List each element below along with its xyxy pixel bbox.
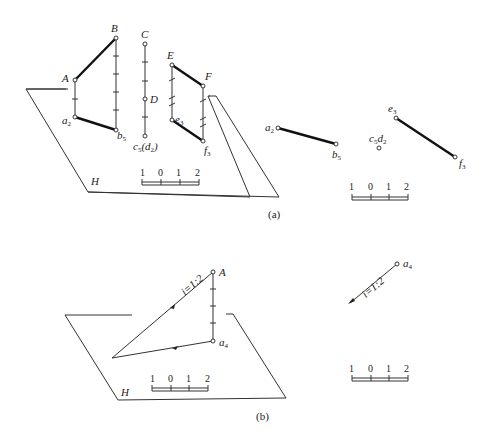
proj-point-a2 <box>276 126 280 130</box>
svg-text:1: 1 <box>386 363 391 374</box>
line-AB <box>75 38 116 80</box>
label-C: C <box>141 28 149 40</box>
line-a2b5 <box>75 117 116 130</box>
proj-label-a4-b: a4 <box>403 257 413 271</box>
point-c5d2 <box>143 134 147 138</box>
label-f3: f3 <box>204 144 211 158</box>
proj-line-e3f3 <box>396 118 455 157</box>
proj-scale-bar: 1 0 1 2 <box>349 181 409 200</box>
slope-line-lower <box>112 341 213 358</box>
point-e3 <box>170 118 174 122</box>
svg-text:2: 2 <box>205 373 210 384</box>
label-A: A <box>61 72 69 84</box>
point-B <box>114 36 118 40</box>
scale-bar-b: 1 0 1 2 <box>150 373 210 391</box>
svg-text:1: 1 <box>349 181 354 192</box>
svg-text:1: 1 <box>150 373 155 384</box>
svg-text:1: 1 <box>186 373 191 384</box>
proj-line-a2b5 <box>278 128 336 144</box>
svg-text:2: 2 <box>404 181 409 192</box>
proj-point-c5d2 <box>377 146 381 150</box>
label-D: D <box>149 93 158 105</box>
label-E: E <box>166 49 174 61</box>
point-a2 <box>73 115 77 119</box>
figure-b-perspective: A a4 i=1:2 H 1 0 1 2 (b) <box>65 266 286 423</box>
svg-text:1: 1 <box>349 363 354 374</box>
diagram-canvas: A B C D E F a2 b5 c5(d2) e3 f3 H 1 0 1 2 <box>0 0 491 441</box>
point-A <box>73 78 77 82</box>
point-F <box>201 84 205 88</box>
svg-text:1: 1 <box>140 167 145 178</box>
proj-label-c5d2: c5d2 <box>369 132 387 146</box>
label-e3: e3 <box>175 113 184 127</box>
svg-text:0: 0 <box>368 363 373 374</box>
point-C <box>143 42 147 46</box>
plane-h-outline <box>26 89 250 197</box>
proj-label-slope-b: i=1:2 <box>359 274 386 300</box>
arrow-lower <box>172 346 178 350</box>
label-plane-h: H <box>90 175 100 187</box>
label-c5d2: c5(d2) <box>133 140 158 154</box>
label-plane-h-b: H <box>120 386 130 398</box>
figure-a-perspective: A B C D E F a2 b5 c5(d2) e3 f3 H 1 0 1 2 <box>26 22 279 197</box>
point-f3 <box>201 139 205 143</box>
proj-point-a4-b <box>395 262 399 266</box>
svg-text:2: 2 <box>404 363 409 374</box>
proj-arrow-b <box>348 298 355 304</box>
point-A-b <box>211 270 215 274</box>
proj-label-e3: e3 <box>388 102 397 116</box>
plane-h-outline-b <box>65 314 286 400</box>
proj-label-a2: a2 <box>265 121 275 135</box>
label-a4-b: a4 <box>219 336 229 350</box>
line-EF <box>172 65 203 86</box>
label-A-b: A <box>218 266 226 278</box>
point-a4-b <box>211 339 215 343</box>
svg-text:1: 1 <box>386 181 391 192</box>
label-slope-b: i=1:2 <box>178 271 205 297</box>
label-B: B <box>111 22 118 34</box>
proj-scale-bar-b: 1 0 1 2 <box>349 363 409 381</box>
proj-label-b5: b5 <box>332 148 342 162</box>
svg-text:2: 2 <box>195 167 200 178</box>
figure-a-projection: a2 b5 c5d2 e3 f3 1 0 1 2 (a) <box>265 102 466 221</box>
proj-point-b5 <box>334 142 338 146</box>
svg-text:0: 0 <box>158 167 163 178</box>
figure-b-projection: a4 i=1:2 1 0 1 2 <box>348 257 413 381</box>
caption-a: (a) <box>268 208 281 221</box>
point-D <box>143 97 147 101</box>
proj-point-e3 <box>394 116 398 120</box>
proj-label-f3: f3 <box>459 157 466 171</box>
label-a2: a2 <box>62 114 72 128</box>
svg-text:0: 0 <box>368 181 373 192</box>
svg-text:0: 0 <box>168 373 173 384</box>
scale-bar: 1 0 1 2 <box>140 167 200 185</box>
point-E <box>170 63 174 67</box>
label-b5: b5 <box>117 129 127 143</box>
caption-b: (b) <box>256 410 269 423</box>
proj-point-f3 <box>453 155 457 159</box>
svg-text:1: 1 <box>176 167 181 178</box>
label-F: F <box>204 70 212 82</box>
